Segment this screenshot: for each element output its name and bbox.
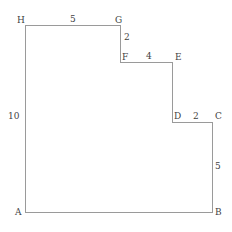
vertex-label-a: A: [15, 207, 22, 217]
dimension-label-ha: 10: [8, 111, 19, 121]
vertex-label-d: D: [174, 111, 181, 121]
vertex-label-c: C: [215, 111, 222, 121]
staircase-polygon-outline: [25, 25, 212, 212]
vertex-label-b: B: [215, 207, 222, 217]
vertex-label-h: H: [17, 15, 25, 25]
geometry-figure: H G F E D C B A 5 2 4 2 5 10: [0, 0, 232, 232]
dimension-label-cb: 5: [215, 161, 221, 171]
dimension-label-hg: 5: [70, 14, 76, 24]
dimension-label-dc: 2: [193, 111, 199, 121]
vertex-label-g: G: [115, 15, 122, 25]
dimension-label-fe: 4: [146, 51, 152, 61]
vertex-label-e: E: [175, 52, 182, 62]
dimension-label-gf: 2: [124, 32, 130, 42]
vertex-label-f: F: [122, 52, 128, 62]
